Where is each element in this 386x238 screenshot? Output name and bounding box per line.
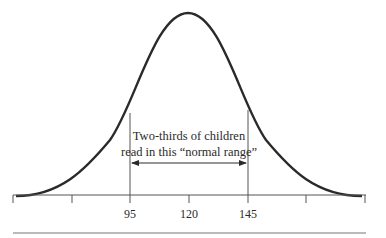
tick-label-95: 95 bbox=[124, 207, 136, 221]
bell-curve bbox=[16, 13, 362, 196]
x-axis-ticks bbox=[13, 195, 365, 203]
tick-label-120: 120 bbox=[180, 207, 198, 221]
annotation-line-2: read in this “normal range” bbox=[121, 145, 257, 159]
tick-label-145: 145 bbox=[239, 207, 257, 221]
normal-distribution-chart: Two-thirds of children read in this “nor… bbox=[0, 0, 386, 238]
annotation-line-1: Two-thirds of children bbox=[133, 129, 246, 143]
